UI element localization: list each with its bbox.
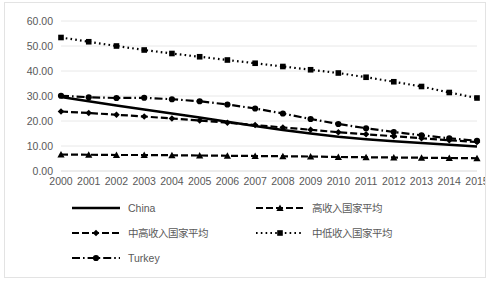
series-0 (61, 97, 477, 147)
square-marker (252, 60, 258, 66)
circle-marker (113, 95, 119, 101)
square-marker (86, 39, 92, 45)
data-series-group (57, 35, 480, 161)
circle-marker (418, 132, 424, 138)
circle-marker (93, 254, 99, 260)
legend-item-3[interactable]: 中低收入国家平均 (241, 225, 467, 240)
x-axis-tick-label: 2003 (133, 175, 157, 187)
x-axis-tick-label: 2000 (49, 175, 73, 187)
y-axis-tick-label: 10.00 (27, 140, 53, 152)
chart-legend: China高收入国家平均中高收入国家平均中低收入国家平均Turkey (5, 195, 487, 270)
circle-marker (224, 101, 230, 107)
legend-label: China (128, 202, 155, 214)
circle-marker (335, 121, 341, 127)
circle-marker (58, 93, 64, 99)
chart-container: 0.0010.0020.0030.0040.0050.0060.00 20002… (4, 2, 486, 278)
square-marker (419, 84, 425, 90)
legend-row: 中高收入国家平均中低收入国家平均 (19, 220, 473, 245)
diamond-marker (363, 131, 370, 138)
x-axis-tick-label: 2001 (77, 175, 101, 187)
circle-marker (308, 116, 314, 122)
x-axis-tick-label: 2004 (160, 175, 184, 187)
x-axis-tick-label: 2010 (327, 175, 351, 187)
x-axis-tick-label: 2009 (299, 175, 323, 187)
x-axis-tick-label: 2006 (216, 175, 240, 187)
series-line (61, 96, 477, 141)
diamond-marker (58, 108, 65, 115)
legend-row: China高收入国家平均 (19, 195, 473, 220)
circle-marker (169, 96, 175, 102)
diamond-marker (335, 129, 342, 136)
x-axis-tick-label: 2005 (188, 175, 212, 187)
square-marker (280, 64, 286, 70)
legend-item-2[interactable]: 中高收入国家平均 (19, 225, 241, 240)
series-3 (58, 35, 480, 101)
square-marker (114, 43, 120, 49)
x-axis-tick-label: 2011 (355, 175, 378, 187)
x-axis-tick-label: 2007 (243, 175, 267, 187)
y-axis-tick-label: 40.00 (27, 65, 53, 77)
x-axis-tick-label: 2015 (465, 175, 485, 187)
y-axis-tick-label: 50.00 (27, 40, 53, 52)
circle-marker (280, 110, 286, 116)
legend-swatch (71, 251, 121, 265)
square-marker (197, 54, 203, 60)
square-marker (308, 67, 314, 73)
x-axis-tick-label: 2008 (271, 175, 295, 187)
legend-label: 中高收入国家平均 (128, 225, 208, 240)
y-axis-tick-label: 30.00 (27, 90, 53, 102)
square-marker (169, 51, 175, 57)
series-line (61, 38, 477, 99)
diamond-marker (113, 111, 120, 118)
y-axis-tick-label: 60.00 (27, 15, 53, 27)
square-marker (58, 35, 64, 41)
square-marker (391, 79, 397, 85)
circle-marker (141, 95, 147, 101)
square-marker (336, 70, 342, 76)
legend-item-4[interactable]: Turkey (19, 251, 241, 265)
legend-label: Turkey (128, 252, 160, 264)
y-axis-tick-labels: 0.0010.0020.0030.0040.0050.0060.00 (27, 15, 53, 177)
legend-swatch (255, 226, 305, 240)
circle-marker (446, 135, 452, 141)
square-marker (363, 74, 369, 80)
diamond-marker (85, 110, 92, 117)
circle-marker (474, 138, 480, 144)
series-4 (58, 93, 480, 144)
square-marker (474, 95, 480, 101)
x-axis-tick-label: 2012 (382, 175, 406, 187)
gridlines (61, 21, 477, 171)
x-axis-tick-label: 2002 (105, 175, 129, 187)
line-chart-plot: 0.0010.0020.0030.0040.0050.0060.00 20002… (5, 3, 485, 195)
legend-row: Turkey (19, 245, 473, 270)
circle-marker (391, 129, 397, 135)
diamond-marker (93, 229, 100, 236)
y-axis-tick-label: 20.00 (27, 115, 53, 127)
legend-swatch (255, 201, 305, 215)
x-axis-tick-label: 2013 (410, 175, 434, 187)
legend-item-1[interactable]: 高收入国家平均 (241, 200, 467, 215)
legend-label: 高收入国家平均 (312, 200, 382, 215)
legend-item-0[interactable]: China (19, 201, 241, 215)
legend-swatch (71, 226, 121, 240)
series-1 (57, 151, 480, 161)
circle-marker (363, 125, 369, 131)
square-marker (277, 230, 283, 236)
square-marker (446, 90, 452, 96)
series-line (61, 155, 477, 159)
diamond-marker (141, 113, 148, 120)
circle-marker (197, 98, 203, 104)
x-axis-tick-label: 2014 (438, 175, 462, 187)
circle-marker (86, 94, 92, 100)
series-line (61, 97, 477, 147)
x-axis-tick-labels: 2000200120022003200420052006200720082009… (49, 175, 485, 187)
square-marker (225, 57, 231, 63)
legend-swatch (71, 201, 121, 215)
legend-label: 中低收入国家平均 (312, 225, 392, 240)
circle-marker (252, 105, 258, 111)
square-marker (141, 47, 147, 53)
